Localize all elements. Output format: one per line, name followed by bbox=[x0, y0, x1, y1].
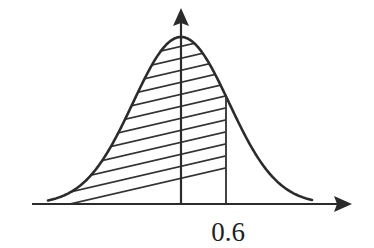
hatched-area-left-of-cutoff bbox=[18, 0, 236, 216]
hatch-line bbox=[18, 166, 236, 216]
hatch-line bbox=[18, 0, 236, 36]
hatch-line bbox=[18, 154, 236, 204]
hatch-line bbox=[18, 0, 236, 48]
hatch-line bbox=[18, 0, 236, 12]
hatch-line bbox=[18, 0, 236, 24]
hatch-line bbox=[18, 142, 236, 192]
figure-container: 0.6 bbox=[0, 0, 374, 248]
x-axis-tick-label-0-6: 0.6 bbox=[211, 219, 245, 246]
distribution-figure bbox=[0, 0, 374, 248]
